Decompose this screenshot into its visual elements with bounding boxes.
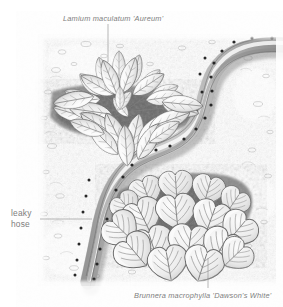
label-brunnera-macrophylla: Brunnera macrophylla 'Dawson's White' — [134, 291, 271, 300]
label-lamium-maculatum: Lamium maculatum 'Aureum' — [63, 14, 163, 23]
garden-illustration-artwork — [0, 0, 283, 307]
illustration-figure: Lamium maculatum 'Aureum' Brunnera macro… — [0, 0, 283, 307]
label-leaky-hose: leaky hose — [11, 208, 32, 230]
label-leaky-hose-line1: leaky — [11, 208, 32, 219]
label-leaky-hose-line2: hose — [11, 219, 32, 230]
